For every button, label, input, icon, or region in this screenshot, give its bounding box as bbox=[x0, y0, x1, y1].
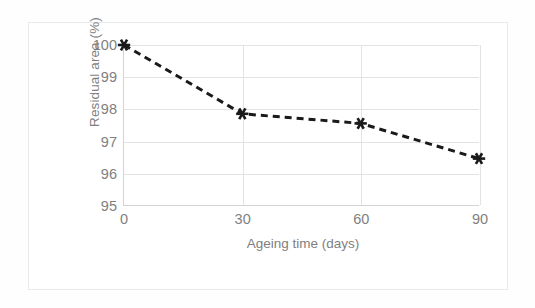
x-axis-title: Ageing time (days) bbox=[123, 236, 483, 251]
x-tick-label: 60 bbox=[331, 211, 391, 227]
y-tick-label: 96 bbox=[55, 166, 117, 182]
data-point-marker bbox=[236, 108, 248, 119]
y-tick-label: 97 bbox=[55, 134, 117, 150]
chart-frame: Residual area (%) 9596979899100 0306090 … bbox=[28, 22, 508, 290]
chart-screenshot: Residual area (%) 9596979899100 0306090 … bbox=[0, 0, 535, 308]
gridline-vertical bbox=[480, 45, 481, 205]
plot-area: 9596979899100 0306090 bbox=[123, 45, 479, 206]
data-point-marker bbox=[354, 118, 366, 129]
y-tick-label: 100 bbox=[55, 37, 117, 53]
data-point-marker bbox=[473, 153, 485, 164]
series-line bbox=[124, 45, 479, 159]
y-tick-label: 98 bbox=[55, 101, 117, 117]
x-tick-label: 0 bbox=[94, 211, 154, 227]
y-tick-label: 99 bbox=[55, 69, 117, 85]
x-tick-label: 30 bbox=[213, 211, 273, 227]
x-tick-label: 90 bbox=[450, 211, 510, 227]
data-series-line bbox=[124, 45, 479, 205]
